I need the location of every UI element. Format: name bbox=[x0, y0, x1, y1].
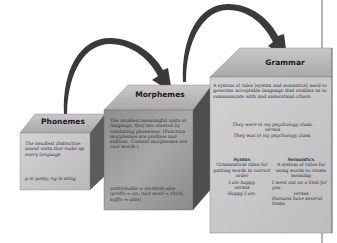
semantics-example-line1: I went out on a limb for you. bbox=[272, 180, 330, 191]
grammar-example: They were in my psychology class. versus… bbox=[215, 122, 330, 138]
semantics-column: Semantics A system of rules for using wo… bbox=[272, 157, 330, 207]
grammar-description: A system of rules (syntax and semantics)… bbox=[213, 83, 329, 99]
syntax-example-line2: Happy I am. bbox=[213, 191, 271, 196]
grammar-example-line2: They was in my psychology class. bbox=[215, 133, 330, 138]
syntax-description: Grammatical rules for putting words in c… bbox=[213, 162, 271, 178]
phonemes-title: Phonemes bbox=[28, 117, 98, 126]
grammar-title: Grammar bbox=[240, 58, 330, 67]
morphemes-description: The smallest meaningful units of languag… bbox=[110, 118, 188, 150]
phonemes-example: p in patsy; ng in sting bbox=[25, 176, 89, 181]
morphemes-title: Morphemes bbox=[118, 90, 202, 99]
phonemes-description: The smallest distinctive sound units tha… bbox=[25, 141, 87, 157]
semantics-example-line2: Humans have several limbs. bbox=[272, 196, 330, 207]
syntax-column: Syntax Grammatical rules for putting wor… bbox=[213, 157, 271, 196]
semantics-description: A system of rules for using words to cre… bbox=[272, 162, 330, 178]
morphemes-example: unthinkable = un-think-able (prefix = un… bbox=[110, 186, 190, 202]
